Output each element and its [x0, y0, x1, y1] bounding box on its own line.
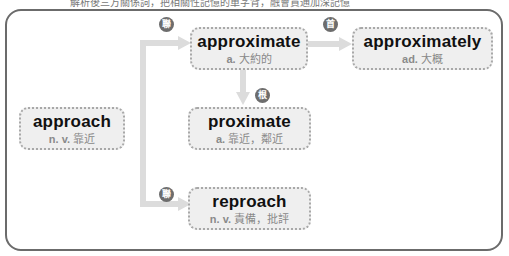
node-word: approximate: [192, 33, 306, 51]
node-definition: n. v. 責備，批評: [190, 213, 309, 226]
node-approximate: approximate a. 大約的: [190, 27, 308, 70]
node-word: approach: [21, 113, 123, 131]
connector-vertical-main: [140, 40, 146, 207]
node-approach: approach n. v. 靠近: [19, 107, 125, 150]
connector-to-approximate: [140, 40, 180, 46]
caption-text: 解析後三方關係詞，把相關性記憶的單字背，融會貫通加深記憶: [70, 0, 350, 9]
node-definition: a. 靠近，鄰近: [190, 133, 309, 146]
connector-to-reproach: [140, 201, 180, 207]
node-word: approximately: [354, 33, 491, 51]
node-word: proximate: [190, 113, 309, 131]
root-badge-icon: 根: [255, 88, 270, 103]
node-proximate: proximate a. 靠近，鄰近: [188, 107, 311, 150]
connector-to-approximately: [307, 41, 341, 47]
connector-to-proximate: [240, 70, 246, 94]
node-word: reproach: [190, 193, 309, 211]
node-reproach: reproach n. v. 責備，批評: [188, 187, 311, 230]
node-definition: ad. 大概: [354, 53, 491, 66]
node-definition: n. v. 靠近: [21, 133, 123, 146]
arrow-down-icon: [236, 92, 250, 105]
related-badge-icon: 聯: [159, 187, 174, 202]
node-definition: a. 大約的: [192, 53, 306, 66]
arrow-right-icon: [339, 37, 352, 51]
prefix-badge-icon: 首: [323, 17, 338, 32]
node-approximately: approximately ad. 大概: [352, 27, 493, 70]
related-badge-icon: 聯: [159, 17, 174, 32]
